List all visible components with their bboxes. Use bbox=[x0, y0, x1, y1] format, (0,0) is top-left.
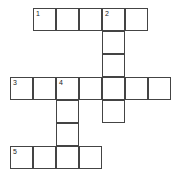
crossword-cell[interactable] bbox=[125, 77, 148, 100]
crossword-cell[interactable] bbox=[79, 8, 102, 31]
crossword-cell[interactable] bbox=[56, 8, 79, 31]
crossword-cell[interactable]: 4 bbox=[56, 77, 79, 100]
crossword-cell[interactable] bbox=[33, 77, 56, 100]
crossword-cell[interactable] bbox=[56, 146, 79, 169]
crossword-cell[interactable] bbox=[56, 100, 79, 123]
crossword-cell[interactable] bbox=[33, 146, 56, 169]
crossword-cell[interactable] bbox=[79, 146, 102, 169]
crossword-cell[interactable] bbox=[102, 31, 125, 54]
crossword-cell[interactable] bbox=[148, 77, 171, 100]
crossword-cell[interactable]: 5 bbox=[10, 146, 33, 169]
crossword-cell[interactable]: 2 bbox=[102, 8, 125, 31]
crossword-cell[interactable]: 1 bbox=[33, 8, 56, 31]
crossword-cell[interactable]: 3 bbox=[10, 77, 33, 100]
crossword-cell[interactable] bbox=[102, 54, 125, 77]
clue-number: 2 bbox=[105, 10, 109, 17]
clue-number: 4 bbox=[59, 79, 63, 86]
crossword-cell[interactable] bbox=[102, 77, 125, 100]
crossword-cell[interactable] bbox=[102, 100, 125, 123]
crossword-cell[interactable] bbox=[125, 8, 148, 31]
clue-number: 3 bbox=[13, 79, 17, 86]
clue-number: 5 bbox=[13, 148, 17, 155]
crossword-cell[interactable] bbox=[79, 77, 102, 100]
clue-number: 1 bbox=[36, 10, 40, 17]
crossword-cell[interactable] bbox=[56, 123, 79, 146]
